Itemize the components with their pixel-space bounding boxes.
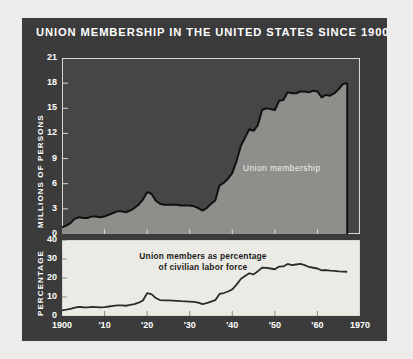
x-axis-tick: '40 (212, 320, 252, 330)
bottom-chart-y-tick: 0 (31, 310, 57, 320)
bottom-chart-y-tick: 20 (31, 272, 57, 282)
chart-poster: UNION MEMBERSHIP IN THE UNITED STATES SI… (0, 0, 413, 359)
bottom-chart-y-tick: 10 (31, 291, 57, 301)
top-chart-y-tick: 18 (31, 77, 57, 87)
page-title: UNION MEMBERSHIP IN THE UNITED STATES SI… (36, 26, 381, 38)
top-chart-y-tick: 9 (31, 153, 57, 163)
top-chart-y-tick: 6 (31, 178, 57, 188)
top-chart-annotation: Union membership (243, 163, 321, 173)
top-chart-series (62, 58, 360, 234)
x-axis-tick: '60 (297, 320, 337, 330)
x-axis-tick: '10 (85, 320, 125, 330)
x-axis-tick: 1900 (42, 320, 82, 330)
bottom-chart-y-tick: 40 (31, 234, 57, 244)
x-axis-tick: 1970 (340, 320, 380, 330)
top-chart-y-tick: 3 (31, 203, 57, 213)
bottom-chart-annotation-line1: Union members as percentage (118, 251, 288, 262)
bottom-chart-annotation-line2: of civilian labor force (118, 262, 288, 273)
top-chart-y-tick: 21 (31, 52, 57, 62)
x-axis-tick: '20 (127, 320, 167, 330)
top-chart-plot-area (62, 58, 360, 234)
x-axis-tick: '50 (255, 320, 295, 330)
top-chart-y-tick: 15 (31, 102, 57, 112)
bottom-chart-y-tick: 30 (31, 253, 57, 263)
x-axis-tick: '30 (170, 320, 210, 330)
top-chart-y-tick: 12 (31, 127, 57, 137)
bottom-chart-annotation: Union members as percentage of civilian … (118, 251, 288, 272)
